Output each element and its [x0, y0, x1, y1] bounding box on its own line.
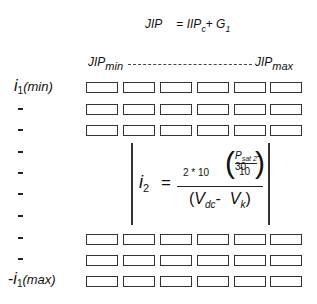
- header-min-label: JIP: [88, 55, 105, 69]
- row-label-i1-max: -i1(max): [8, 270, 56, 288]
- cell-box: [160, 234, 192, 245]
- equation-open-paren: (: [225, 146, 235, 180]
- equation-lhs: i2: [139, 172, 149, 193]
- row-dash: [18, 129, 23, 131]
- row-last-sub: 1: [17, 278, 23, 289]
- header-dashed-line: [128, 64, 252, 65]
- cell-box: [234, 255, 266, 266]
- equation-coefficient: 2 * 10: [183, 167, 209, 178]
- row-dash: [18, 172, 23, 174]
- cell-box: [197, 276, 229, 287]
- formula-term2-sub: 1: [225, 24, 230, 34]
- main-fraction-line: [177, 186, 263, 187]
- row-first-paren: (min): [23, 79, 53, 94]
- cell-box: [197, 234, 229, 245]
- cell-box: [86, 125, 118, 136]
- cell-box: [160, 104, 192, 115]
- cell-box: [270, 82, 302, 93]
- equation-denominator: (Vdc- Vk): [189, 190, 251, 208]
- equation-numerator: 2 * 10 ( Psat 2-30 10 ): [177, 148, 263, 184]
- cell-box: [123, 82, 155, 93]
- den-v1: V: [194, 190, 205, 207]
- cell-box: [86, 82, 118, 93]
- den-v2: V: [230, 190, 241, 207]
- cell-box: [270, 125, 302, 136]
- header-jip-min: JIPmin: [88, 55, 123, 69]
- cell-box: [234, 234, 266, 245]
- cell-box: [234, 125, 266, 136]
- cell-box: [123, 255, 155, 266]
- cell-box: [123, 276, 155, 287]
- cell-box: [270, 234, 302, 245]
- row-dash: [18, 215, 23, 217]
- formula-term1: IIP: [187, 17, 202, 31]
- cell-box: [234, 276, 266, 287]
- cell-box: [197, 125, 229, 136]
- formula-term2: G: [216, 17, 225, 31]
- cell-box: [270, 104, 302, 115]
- row-last-paren: (max): [22, 272, 55, 287]
- inner-fraction-line: [235, 163, 257, 164]
- formula-lhs: JIP: [145, 17, 162, 31]
- den-minus: -: [216, 190, 221, 207]
- top-formula: JIP= IIPc+ G1: [145, 17, 230, 31]
- row-dash: [18, 151, 23, 153]
- cell-box: [160, 125, 192, 136]
- i2-equation: i2 = 2 * 10 ( Psat 2-30 10 ) (Vdc- Vk): [139, 148, 263, 222]
- equation-left-bar: [131, 143, 133, 225]
- header-min-sub: min: [105, 60, 123, 72]
- row-first-sub: 1: [18, 85, 24, 96]
- cell-box: [86, 276, 118, 287]
- cell-box: [234, 104, 266, 115]
- header-jip-max: JIPmax: [255, 55, 293, 69]
- cell-box: [197, 255, 229, 266]
- den-close-paren: ): [245, 190, 250, 207]
- cell-box: [234, 82, 266, 93]
- cell-box: [86, 255, 118, 266]
- cell-box: [160, 255, 192, 266]
- equation-right-bar: [268, 143, 270, 225]
- cell-box: [270, 276, 302, 287]
- cell-box: [160, 82, 192, 93]
- cell-box: [160, 276, 192, 287]
- cell-box: [86, 234, 118, 245]
- psat-var: P: [235, 150, 242, 161]
- cell-box: [270, 255, 302, 266]
- header-max-label: JIP: [255, 55, 272, 69]
- cell-box: [123, 125, 155, 136]
- formula-equals: =: [176, 17, 183, 31]
- row-dash: [18, 237, 23, 239]
- header-max-sub: max: [272, 60, 293, 72]
- equation-inner-denominator: 10: [239, 166, 250, 177]
- row-dash: [18, 108, 23, 110]
- cell-box: [123, 104, 155, 115]
- cell-box: [123, 234, 155, 245]
- den-v1-sub: dc: [205, 199, 216, 210]
- row-dash: [18, 258, 23, 260]
- formula-term1-sub: c: [201, 24, 205, 34]
- cell-box: [197, 82, 229, 93]
- equation-equals: =: [161, 173, 171, 193]
- row-dash: [18, 193, 23, 195]
- formula-plus: +: [206, 17, 213, 31]
- cell-box: [197, 104, 229, 115]
- equation-lhs-sub: 2: [143, 182, 149, 194]
- den-v2-sub: k: [240, 199, 245, 210]
- cell-box: [86, 104, 118, 115]
- row-label-i1-min: i1(min): [14, 77, 53, 95]
- equation-close-paren: ): [255, 146, 265, 180]
